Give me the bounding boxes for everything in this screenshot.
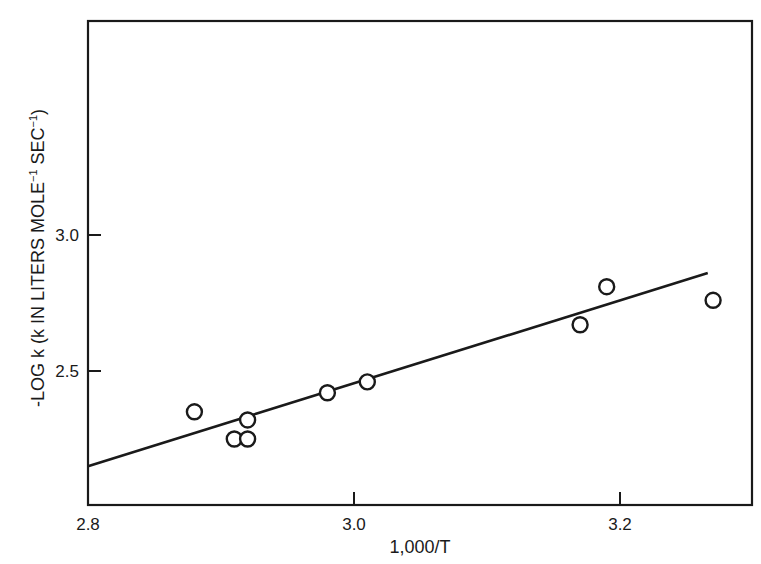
x-tick-label: 2.8	[76, 515, 100, 534]
chart-canvas: 2.83.03.22.53.0 1,000/T -LOG k (k IN LIT…	[0, 0, 761, 564]
axis-tick-labels: 2.83.03.22.53.0	[55, 226, 631, 534]
data-points	[187, 279, 721, 446]
x-tick-label: 3.2	[608, 515, 632, 534]
data-point	[706, 293, 721, 308]
fit-line	[88, 273, 708, 466]
data-point	[573, 317, 588, 332]
y-axis-title-main: -LOG k (k IN LITERS MOLE	[28, 182, 48, 407]
data-point	[599, 279, 614, 294]
y-axis-title-sup1: −1	[27, 169, 39, 182]
y-tick-label: 2.5	[55, 362, 79, 381]
y-axis-title-mid: SEC	[28, 127, 48, 169]
y-tick-label: 3.0	[55, 226, 79, 245]
data-point	[360, 374, 375, 389]
data-point	[240, 432, 255, 447]
data-point	[187, 404, 202, 419]
y-axis-title-end: )	[28, 109, 48, 115]
regression-line	[88, 273, 708, 466]
axis-ticks	[88, 235, 620, 505]
x-tick-label: 3.0	[342, 515, 366, 534]
data-point	[320, 385, 335, 400]
x-axis-title: 1,000/T	[389, 537, 450, 557]
plot-frame	[88, 21, 752, 505]
data-point	[240, 412, 255, 427]
y-axis-title: -LOG k (k IN LITERS MOLE−1 SEC−1)	[27, 109, 48, 407]
y-axis-title-sup2: −1	[27, 115, 39, 128]
